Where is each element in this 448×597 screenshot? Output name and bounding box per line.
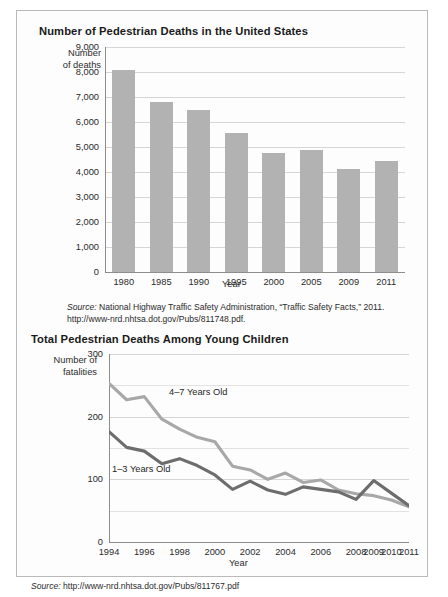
bar-x-tick-label: 1980 <box>113 277 134 287</box>
figure-panel: Number of Pedestrian Deaths in the Unite… <box>17 11 427 576</box>
bar-2009 <box>337 169 360 272</box>
line-x-tick-label: 1994 <box>99 547 120 557</box>
line-y-tick-label: 0 <box>69 537 103 547</box>
line-x-tick-label: 2006 <box>310 547 331 557</box>
bar-1990 <box>187 110 210 272</box>
bar-x-tick-label: 2000 <box>263 277 284 287</box>
bar-chart-title: Number of Pedestrian Deaths in the Unite… <box>39 25 308 37</box>
bar-y-tick-label: 8,000 <box>55 67 99 77</box>
line-x-tick-label: 2011 <box>399 547 419 557</box>
bar-source-line1: Source: National Highway Traffic Safety … <box>67 302 384 312</box>
bar-x-tick-label: 2005 <box>301 277 322 287</box>
bar-y-tick-label: 9,000 <box>55 42 99 52</box>
bar-y-tick-label: 2,000 <box>55 217 99 227</box>
line-y-tick-label: 300 <box>69 349 103 359</box>
bar-x-tick-label: 1985 <box>151 277 172 287</box>
figure-page: Number of Pedestrian Deaths in the Unite… <box>16 10 428 577</box>
bar-y-tick-label: 7,000 <box>55 92 99 102</box>
line-chart-x-axis-title: Year <box>229 558 248 568</box>
bar-2005 <box>300 150 323 272</box>
bar-1980 <box>112 70 135 272</box>
line-x-tick-label: 2002 <box>240 547 261 557</box>
bar-gridline <box>105 97 405 98</box>
bar-y-tick-label: 6,000 <box>55 117 99 127</box>
bar-x-tick-label: 2011 <box>376 277 396 287</box>
bar-gridline <box>105 47 405 48</box>
line-chart-source: Source: http://www-nrd.nhtsa.dot.gov/Pub… <box>31 580 239 592</box>
line-chart-title: Total Pedestrian Deaths Among Young Chil… <box>31 333 289 345</box>
bar-x-tick-label: 2009 <box>338 277 359 287</box>
line-source-line1: Source: http://www-nrd.nhtsa.dot.gov/Pub… <box>31 581 239 591</box>
bar-y-tick-label: 0 <box>55 267 99 277</box>
bar-y-tick-label: 5,000 <box>55 142 99 152</box>
bar-y-tick-label: 1,000 <box>55 242 99 252</box>
bar-2000 <box>262 153 285 272</box>
line-gridline <box>109 542 409 543</box>
bar-2011 <box>375 161 398 272</box>
bar-x-tick-label: 1990 <box>188 277 209 287</box>
bar-gridline <box>105 72 405 73</box>
line-chart-plot: 0100200300199419961998200020022004200620… <box>109 354 409 542</box>
bar-y-tick-label: 3,000 <box>55 192 99 202</box>
bar-source-line2: http://www-nrd.nhtsa.dot.gov/Pubs/811748… <box>67 313 384 325</box>
series-label-1-3-years-old: 1–3 Years Old <box>112 464 170 474</box>
line-y-tick-label: 200 <box>69 412 103 422</box>
line-y-tick-label: 100 <box>69 474 103 484</box>
line-chart-series-group <box>109 354 409 542</box>
bar-y-tick-label: 4,000 <box>55 167 99 177</box>
line-x-tick-label: 1996 <box>134 547 155 557</box>
bar-1985 <box>150 102 173 272</box>
line-x-tick-label: 2000 <box>205 547 226 557</box>
line-series-4-7-years-old <box>109 383 409 506</box>
series-label-4-7-years-old: 4–7 Years Old <box>169 387 227 397</box>
bar-y-axis-line <box>105 47 106 272</box>
line-x-tick-label: 1998 <box>169 547 190 557</box>
line-x-tick-label: 2004 <box>275 547 296 557</box>
bar-chart-source: Source: National Highway Traffic Safety … <box>67 301 384 326</box>
bar-gridline <box>105 272 405 273</box>
bar-chart-x-axis-title: Year <box>222 279 241 289</box>
bar-1995 <box>225 133 248 273</box>
bar-chart-plot: 01,0002,0003,0004,0005,0006,0007,0008,00… <box>105 47 405 272</box>
line-y-caption-line2: fatalities <box>63 367 97 377</box>
